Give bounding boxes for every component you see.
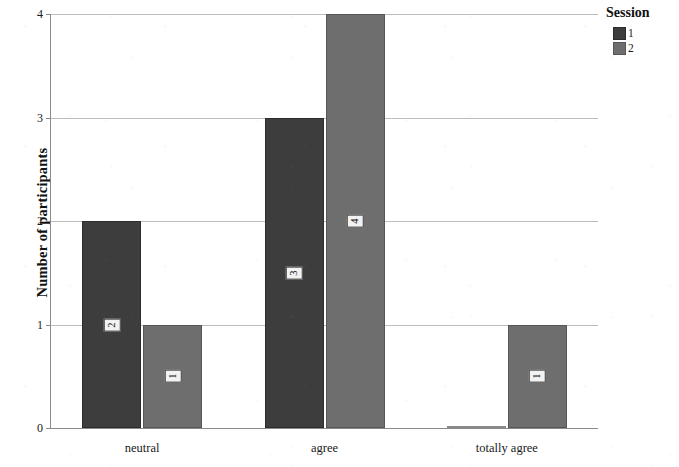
x-category-label-neutral: neutral <box>125 441 160 456</box>
legend: Session 12 <box>606 5 676 56</box>
plot-area: 01234 213401 neutralagreetotally agree <box>51 14 598 428</box>
legend-label-session-2: 2 <box>628 43 634 55</box>
x-category-label-totally-agree: totally agree <box>476 441 538 456</box>
gridline-y-3 <box>51 118 598 119</box>
x-category-label-agree: agree <box>311 441 338 456</box>
bar-agree-session-2[interactable]: 4 <box>326 14 385 428</box>
legend-row-session-1[interactable]: 1 <box>613 26 676 41</box>
legend-label-session-1: 1 <box>628 28 634 40</box>
bar-value-label: 3 <box>286 266 303 279</box>
y-tick-mark-1 <box>46 325 51 326</box>
bar-chart-figure: Number of participants 01234 213401 neut… <box>0 0 679 467</box>
bar-value-label: 1 <box>164 370 181 383</box>
bar-agree-session-1[interactable]: 3 <box>265 118 324 429</box>
legend-swatch-icon-session-1 <box>613 27 626 40</box>
legend-title: Session <box>606 5 676 21</box>
y-tick-label-2: 2 <box>37 214 43 229</box>
legend-row-session-2[interactable]: 2 <box>613 41 676 56</box>
bar-totally-agree-session-1[interactable]: 0 <box>447 426 506 428</box>
y-tick-label-0: 0 <box>37 421 43 436</box>
y-tick-label-3: 3 <box>37 110 43 125</box>
legend-items: 12 <box>613 26 676 56</box>
y-tick-mark-0 <box>46 428 51 429</box>
bar-value-label: 4 <box>347 214 364 227</box>
y-tick-mark-3 <box>46 118 51 119</box>
bar-neutral-session-1[interactable]: 2 <box>82 221 141 428</box>
y-tick-mark-2 <box>46 221 51 222</box>
gridline-y-4 <box>51 14 598 15</box>
bar-neutral-session-2[interactable]: 1 <box>143 325 202 429</box>
legend-swatch-icon-session-2 <box>613 42 626 55</box>
bar-value-label: 2 <box>103 318 120 331</box>
bar-totally-agree-session-2[interactable]: 1 <box>508 325 567 429</box>
y-tick-label-1: 1 <box>37 317 43 332</box>
bar-value-label: 1 <box>529 370 546 383</box>
y-tick-mark-4 <box>46 14 51 15</box>
y-tick-label-4: 4 <box>37 7 43 22</box>
